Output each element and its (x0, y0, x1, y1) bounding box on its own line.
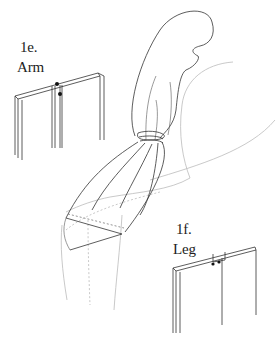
illustration (0, 0, 280, 349)
leg-pin-dot-1 (211, 262, 214, 265)
ghost-body-outline (61, 62, 275, 310)
leg-pin-dot-2 (217, 260, 220, 263)
arm-fold-diagram (15, 73, 104, 160)
arm-pin-dot-2 (58, 92, 62, 96)
gathered-fabric (64, 11, 213, 250)
leg-fold-diagram (173, 247, 256, 333)
arm-pin-dot-1 (55, 82, 59, 86)
